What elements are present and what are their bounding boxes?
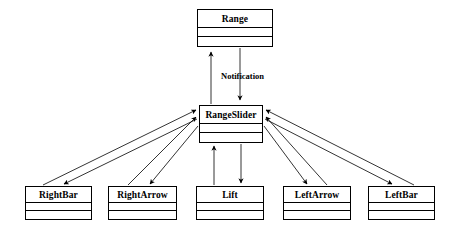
class-box-rightbar[interactable]: RightBar — [25, 186, 92, 220]
edge-rangeslider-to-rightarrow — [150, 126, 198, 184]
class-operations-leftbar — [369, 211, 434, 220]
class-box-leftbar[interactable]: LeftBar — [368, 186, 435, 220]
class-name-lift: Lift — [197, 187, 263, 203]
class-operations-lift — [197, 211, 263, 220]
class-attributes-rightarrow — [109, 203, 176, 211]
class-attributes-rangeslider — [200, 124, 262, 133]
class-name-leftarrow: LeftArrow — [284, 187, 350, 203]
class-name-range: Range — [198, 10, 272, 28]
class-attributes-leftarrow — [284, 203, 350, 211]
class-box-rangeslider[interactable]: RangeSlider — [199, 105, 263, 143]
class-attributes-leftbar — [369, 203, 434, 211]
class-name-rightarrow: RightArrow — [109, 187, 176, 203]
class-name-leftbar: LeftBar — [369, 187, 434, 203]
class-attributes-lift — [197, 203, 263, 211]
class-attributes-rightbar — [26, 203, 91, 211]
class-box-leftarrow[interactable]: LeftArrow — [283, 186, 351, 220]
edge-rightarrow-to-rangeslider — [128, 117, 196, 185]
class-operations-rangeslider — [200, 133, 262, 143]
class-box-range[interactable]: Range — [197, 9, 273, 47]
class-attributes-range — [198, 28, 272, 37]
class-diagram-canvas: Range RangeSlider RightBar RightArrow Li… — [0, 0, 460, 233]
class-operations-rightbar — [26, 211, 91, 220]
edge-rangeslider-to-leftbar — [265, 119, 392, 184]
class-name-rangeslider: RangeSlider — [200, 106, 262, 124]
edge-label-notification: Notification — [221, 71, 264, 81]
class-box-rightarrow[interactable]: RightArrow — [108, 186, 177, 220]
class-operations-range — [198, 37, 272, 47]
class-box-lift[interactable]: Lift — [196, 186, 264, 220]
class-operations-rightarrow — [109, 211, 176, 220]
edge-leftarrow-to-rangeslider — [266, 117, 327, 185]
edge-leftbar-to-rangeslider — [266, 110, 414, 185]
edge-rightbar-to-rangeslider — [43, 110, 196, 185]
class-name-rightbar: RightBar — [26, 187, 91, 203]
class-operations-leftarrow — [284, 211, 350, 220]
